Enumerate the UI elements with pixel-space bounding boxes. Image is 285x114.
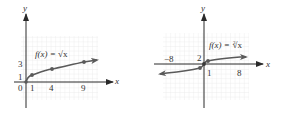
cbrt-x-tick-neg8: −8 (164, 54, 174, 64)
sqrt-x-tick-9: 9 (81, 83, 86, 93)
cbrt-graph: y x −8 1 8 2 f(x) = 3√x (154, 3, 270, 108)
cbrt-point-0 (202, 62, 206, 66)
sqrt-point-9-3 (82, 60, 86, 64)
sqrt-graph: y x 0 1 4 9 1 3 f(x) = √x (14, 3, 119, 108)
cbrt-x-tick-8: 8 (237, 68, 242, 78)
sqrt-point-1-1 (30, 73, 34, 77)
sqrt-x-label: x (114, 76, 119, 86)
sqrt-y-tick-3: 3 (18, 59, 23, 69)
sqrt-y-tick-1: 1 (18, 72, 23, 82)
cbrt-point-1 (206, 59, 210, 63)
cbrt-y-label: y (200, 3, 205, 13)
sqrt-point-0-0 (24, 80, 28, 84)
cbrt-function-label: f(x) = 3√x (209, 40, 243, 50)
sqrt-x-tick-1: 1 (30, 83, 35, 93)
sqrt-point-4-2 (50, 67, 54, 71)
cbrt-y-tick-2: 2 (197, 53, 202, 63)
cbrt-x-tick-1: 1 (207, 68, 212, 78)
cbrt-x-label: x (265, 59, 270, 69)
sqrt-y-label: y (22, 3, 27, 13)
sqrt-function-label: f(x) = √x (35, 49, 68, 59)
cbrt-point-neg1 (198, 66, 202, 70)
sqrt-x-tick-4: 4 (49, 83, 54, 93)
sqrt-x-tick-0: 0 (18, 83, 23, 93)
figure-canvas: y x 0 1 4 9 1 3 f(x) = √x y x −8 1 8 2 f… (0, 0, 285, 114)
